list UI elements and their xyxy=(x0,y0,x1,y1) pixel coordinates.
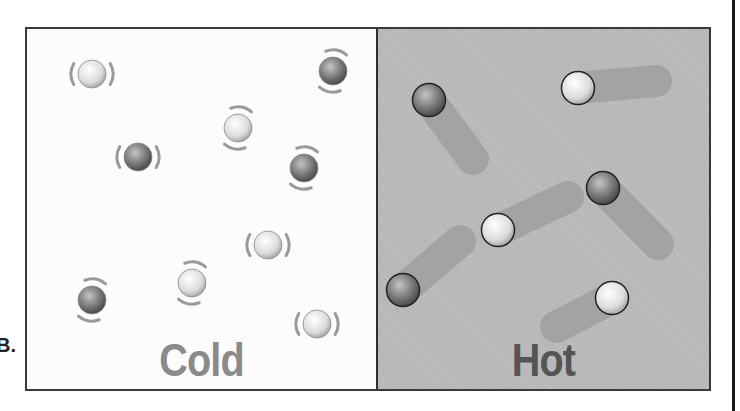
cold-particle xyxy=(224,107,252,149)
vibration-arc xyxy=(117,147,120,168)
vibration-arc xyxy=(231,107,252,112)
vibration-arc xyxy=(185,262,206,267)
vibration-arc xyxy=(286,235,289,256)
cold-particle xyxy=(319,50,347,92)
cold-particle xyxy=(71,60,113,88)
hot-particle xyxy=(587,172,659,245)
hot-panel: Hot xyxy=(376,29,709,389)
vibration-arc xyxy=(85,279,106,284)
vibration-arc xyxy=(110,64,113,85)
vibration-arc xyxy=(156,147,159,168)
cold-particle xyxy=(78,279,106,321)
vibration-arc xyxy=(296,314,299,335)
vibration-arc xyxy=(291,184,312,189)
vibration-arc xyxy=(335,314,338,335)
comparison-diagram: Cold Hot xyxy=(25,27,711,391)
hot-particle xyxy=(562,72,657,105)
hot-particle xyxy=(387,241,461,307)
vibration-arc xyxy=(320,87,341,92)
vibration-arc xyxy=(326,50,347,55)
hot-particle xyxy=(482,197,569,247)
page-edge-rule xyxy=(732,0,735,411)
cold-label: Cold xyxy=(51,333,351,387)
vibration-arc xyxy=(179,299,200,304)
cold-particle xyxy=(178,262,206,304)
vibration-arc xyxy=(79,316,100,321)
hot-particle xyxy=(556,282,629,328)
vibration-arc xyxy=(71,64,74,85)
hot-particle xyxy=(413,84,474,160)
cold-particle xyxy=(117,143,159,171)
figure-label-fragment: B. xyxy=(0,334,16,357)
vibration-arc xyxy=(297,147,318,152)
vibration-arc xyxy=(225,144,246,149)
cold-panel: Cold xyxy=(27,29,376,389)
hot-label: Hot xyxy=(401,333,686,387)
cold-particle xyxy=(290,147,318,189)
cold-particle xyxy=(247,231,289,259)
vibration-arc xyxy=(247,235,250,256)
